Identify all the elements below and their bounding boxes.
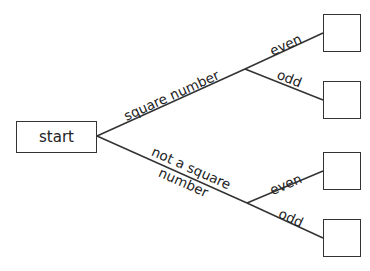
outcome-box-3 [323, 152, 361, 190]
outcome-box-2 [323, 81, 361, 119]
start-label: start [39, 128, 74, 146]
outcome-box-1 [323, 14, 361, 52]
outcome-box-4 [323, 219, 361, 257]
start-box: start [16, 121, 97, 153]
